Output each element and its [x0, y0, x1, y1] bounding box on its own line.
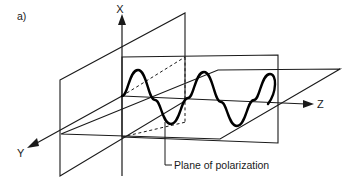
panel-label: a): [17, 10, 26, 22]
polarization-diagram: a) X Y Z Plane of polarization: [0, 0, 359, 189]
y-axis-arrowhead: [27, 138, 39, 148]
axes-group: [27, 14, 314, 176]
caption-leader-line: [165, 122, 172, 165]
figure-container: a) X Y Z Plane of polarization: [0, 0, 359, 189]
wave-path: [122, 70, 275, 126]
x-axis-arrowhead: [118, 14, 126, 25]
sinusoidal-wave: [122, 70, 275, 126]
plane-of-polarization-label: Plane of polarization: [174, 159, 269, 171]
z-axis-label: Z: [317, 98, 324, 110]
y-axis-label: Y: [17, 147, 25, 159]
caption-leader: [165, 122, 172, 165]
y-axis-line: [35, 96, 122, 144]
z-axis-arrowhead: [303, 100, 314, 108]
dashed-edge-lower: [122, 122, 186, 137]
x-axis-label: X: [116, 3, 124, 15]
